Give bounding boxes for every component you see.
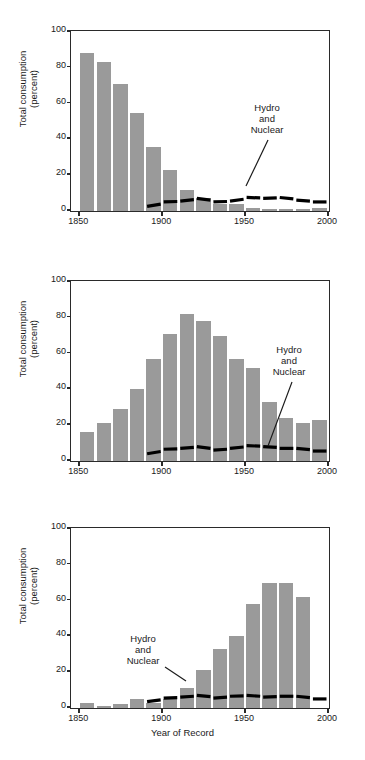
y-tick-mark [67,563,71,565]
chart-panel-coal: Total consumption (percent) Coal Hydro a… [0,268,365,513]
y-tick-mark [67,387,71,389]
x-tick-label: 2000 [307,216,347,226]
x-tick-mark [244,709,246,713]
y-tick-label: 60 [40,594,66,603]
x-tick-mark [161,709,163,713]
x-tick-label: 2000 [307,466,347,476]
energy-consumption-figure: Total consumption (percent) Wood Hydro a… [0,0,365,760]
x-tick-mark [327,462,329,466]
x-tick-mark [78,212,80,216]
x-tick-label: 1900 [141,713,181,723]
x-tick-mark [78,462,80,466]
y-tick-mark [67,209,71,211]
y-tick-label: 20 [40,418,66,427]
y-tick-label: 40 [40,132,66,141]
x-tick-label: 2000 [307,713,347,723]
y-tick-mark [67,30,71,32]
x-tick-label: 1850 [58,216,98,226]
x-tick-mark [327,709,329,713]
x-tick-mark [244,462,246,466]
y-tick-label: 40 [40,629,66,638]
x-tick-mark [244,212,246,216]
x-tick-label: 1950 [224,713,264,723]
y-tick-label: 80 [40,311,66,320]
y-tick-label: 0 [40,204,66,213]
y-tick-label: 100 [40,522,66,531]
x-tick-label: 1850 [58,466,98,476]
y-tick-mark [67,352,71,354]
y-tick-mark [67,173,71,175]
y-tick-mark [67,280,71,282]
x-tick-mark [327,212,329,216]
y-tick-label: 80 [40,558,66,567]
x-tick-label: 1950 [224,466,264,476]
y-tick-mark [67,599,71,601]
x-axis-title: Year of Record [0,727,365,738]
x-tick-label: 1900 [141,216,181,226]
y-tick-mark [67,423,71,425]
x-tick-mark [78,709,80,713]
y-tick-label: 20 [40,665,66,674]
x-tick-label: 1950 [224,216,264,226]
x-tick-label: 1850 [58,713,98,723]
y-tick-mark [67,527,71,529]
x-tick-label: 1900 [141,466,181,476]
y-tick-mark [67,706,71,708]
y-tick-label: 100 [40,25,66,34]
x-tick-mark [161,462,163,466]
y-tick-mark [67,670,71,672]
y-tick-label: 20 [40,168,66,177]
y-tick-mark [67,459,71,461]
y-tick-label: 0 [40,701,66,710]
x-tick-mark [161,212,163,216]
chart-panel-oil-and-gas: Total consumption (percent) Oil and gas … [0,515,365,760]
y-tick-label: 100 [40,275,66,284]
y-tick-label: 0 [40,454,66,463]
y-tick-label: 80 [40,61,66,70]
y-tick-label: 40 [40,382,66,391]
y-tick-mark [67,634,71,636]
y-tick-mark [67,316,71,318]
y-tick-label: 60 [40,347,66,356]
chart-panel-wood: Total consumption (percent) Wood Hydro a… [0,18,365,263]
y-tick-mark [67,137,71,139]
y-tick-mark [67,66,71,68]
y-tick-label: 60 [40,97,66,106]
y-tick-mark [67,102,71,104]
